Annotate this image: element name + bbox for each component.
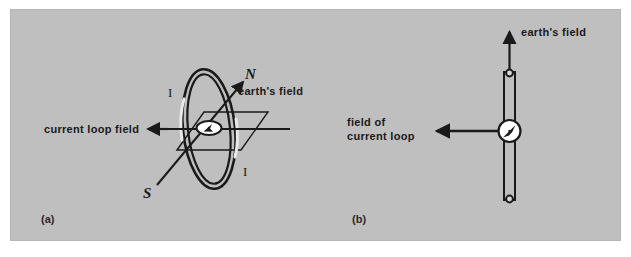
current-label-upper: I — [168, 85, 172, 100]
current-loop-field-label: current loop field — [44, 123, 139, 135]
south-pole-label: S — [143, 185, 151, 201]
north-pole-label: N — [244, 66, 257, 82]
earths-field-label-b: earth's field — [521, 26, 586, 38]
panel-b-caption: (b) — [352, 213, 366, 225]
field-of-current-loop-label-line1: field of — [347, 116, 385, 128]
compass-panel-a — [197, 121, 222, 135]
compass-panel-b — [499, 120, 521, 142]
current-label-lower: I — [243, 164, 247, 179]
field-of-current-loop-label-line2: current loop — [347, 130, 415, 142]
panel-a-caption: (a) — [41, 213, 55, 225]
panel-a-group: current loop field N earth's field S I I… — [41, 66, 303, 225]
panel-b-group: earth's field field of current loop (b) — [347, 26, 586, 225]
figure-drawing: current loop field N earth's field S I I… — [0, 0, 631, 257]
earths-field-label-a: earth's field — [238, 85, 303, 97]
figure-root: current loop field N earth's field S I I… — [0, 0, 631, 257]
